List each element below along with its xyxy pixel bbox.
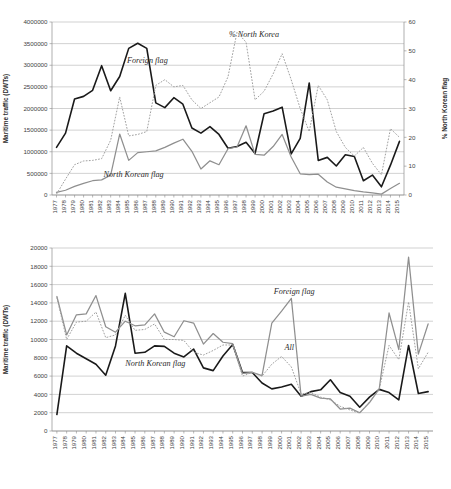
x-tick-label: 2008 xyxy=(354,435,361,449)
x-tick-label: 2003 xyxy=(285,199,292,213)
x-tick-label: 2003 xyxy=(305,435,312,449)
y2-tick-label: 30 xyxy=(409,105,416,112)
x-tick-label: 2006 xyxy=(312,199,319,213)
series-annotation: % North Korea xyxy=(229,30,279,39)
y2-tick-label: 10 xyxy=(409,162,416,169)
chart-top: 0500000100000015000002000000250000030000… xyxy=(0,0,451,245)
x-tick-label: 1996 xyxy=(222,199,229,213)
x-tick-label: 2000 xyxy=(276,435,283,449)
x-tick-label: 2012 xyxy=(366,199,373,213)
x-tick-label: 1999 xyxy=(266,435,273,449)
x-tick-label: 1994 xyxy=(204,199,211,213)
y-axis-title: Maritime traffic (DWTs) xyxy=(2,74,10,143)
x-tick-label: 2009 xyxy=(364,435,371,449)
x-tick-label: 1977 xyxy=(51,199,58,213)
y2-tick-label: 60 xyxy=(409,18,416,25)
x-tick-label: 1987 xyxy=(149,435,156,449)
x-tick-label: 1991 xyxy=(177,199,184,213)
figure-container: 0500000100000015000002000000250000030000… xyxy=(0,0,451,489)
y-tick-label: 12000 xyxy=(30,317,48,324)
x-tick-label: 1996 xyxy=(237,435,244,449)
x-tick-label: 1998 xyxy=(240,199,247,213)
y-tick-label: 2000000 xyxy=(23,105,48,112)
x-tick-label: 1997 xyxy=(246,435,253,449)
x-tick-label: 2001 xyxy=(267,199,274,213)
series-annotation: Foreign flag xyxy=(126,56,168,65)
x-tick-label: 2015 xyxy=(422,435,429,449)
y2-tick-label: 20 xyxy=(409,134,416,141)
x-tick-label: 1985 xyxy=(123,199,130,213)
x-tick-label: 1988 xyxy=(158,435,165,449)
y-tick-label: 1500000 xyxy=(23,126,48,133)
x-tick-label: 1980 xyxy=(80,435,87,449)
x-tick-label: 1982 xyxy=(96,199,103,213)
x-tick-label: 2014 xyxy=(384,199,391,213)
x-tick-label: 1978 xyxy=(60,199,67,213)
x-tick-label: 2014 xyxy=(412,435,419,449)
series-line-north-korean-flag xyxy=(57,126,400,194)
y-tick-label: 18000 xyxy=(30,263,48,270)
secondary-y-axis-title: % North Korean flag xyxy=(441,78,449,140)
y-tick-label: 16000 xyxy=(30,281,48,288)
y-tick-label: 6000 xyxy=(34,372,48,379)
y-tick-label: 0 xyxy=(44,427,48,434)
x-tick-label: 1990 xyxy=(178,435,185,449)
x-tick-label: 1997 xyxy=(231,199,238,213)
x-tick-label: 1983 xyxy=(110,435,117,449)
x-tick-label: 1984 xyxy=(119,435,126,449)
x-tick-label: 2009 xyxy=(339,199,346,213)
y-tick-label: 1000000 xyxy=(23,148,48,155)
y2-tick-label: 0 xyxy=(409,191,413,198)
x-tick-label: 2008 xyxy=(330,199,337,213)
x-tick-label: 1992 xyxy=(186,199,193,213)
chart-bottom: 0200040006000800010000120001400016000180… xyxy=(0,232,451,489)
y2-tick-label: 50 xyxy=(409,47,416,54)
x-tick-label: 1992 xyxy=(197,435,204,449)
x-tick-label: 1986 xyxy=(132,199,139,213)
x-tick-label: 2011 xyxy=(383,435,390,449)
y-tick-label: 500000 xyxy=(27,170,48,177)
x-tick-label: 1980 xyxy=(78,199,85,213)
x-tick-label: 2011 xyxy=(357,199,364,213)
x-tick-label: 1990 xyxy=(168,199,175,213)
x-tick-label: 1985 xyxy=(129,435,136,449)
x-tick-label: 1994 xyxy=(217,435,224,449)
series-line-foreign-flag xyxy=(57,43,400,187)
y-axis-title: Maritime traffic (DWTs) xyxy=(2,305,10,374)
series-annotation: North Korean flag xyxy=(124,359,185,368)
series-line-north-korean-flag xyxy=(57,293,428,414)
x-tick-label: 1993 xyxy=(207,435,214,449)
series-annotation: All xyxy=(284,343,295,352)
x-tick-label: 2010 xyxy=(348,199,355,213)
x-tick-label: 2005 xyxy=(303,199,310,213)
y-tick-label: 14000 xyxy=(30,299,48,306)
x-tick-label: 2007 xyxy=(344,435,351,449)
x-tick-label: 1989 xyxy=(168,435,175,449)
x-tick-label: 1988 xyxy=(150,199,157,213)
x-tick-label: 1999 xyxy=(249,199,256,213)
x-tick-label: 2006 xyxy=(334,435,341,449)
y2-tick-label: 40 xyxy=(409,76,416,83)
series-annotation: North Korean flag xyxy=(102,170,163,179)
x-tick-label: 1979 xyxy=(69,199,76,213)
series-annotation: Foreign flag xyxy=(273,287,315,296)
x-tick-label: 2000 xyxy=(258,199,265,213)
x-tick-label: 2004 xyxy=(294,199,301,213)
y-tick-label: 0 xyxy=(44,191,48,198)
y-tick-label: 2500000 xyxy=(23,83,48,90)
x-tick-label: 1983 xyxy=(105,199,112,213)
x-tick-label: 2004 xyxy=(315,435,322,449)
x-tick-label: 2002 xyxy=(295,435,302,449)
x-tick-label: 1981 xyxy=(87,199,94,213)
x-tick-label: 1987 xyxy=(141,199,148,213)
chart-bottom-svg: 0200040006000800010000120001400016000180… xyxy=(0,232,451,489)
x-tick-label: 1979 xyxy=(70,435,77,449)
x-tick-label: 2013 xyxy=(375,199,382,213)
series-line-foreign-flag xyxy=(57,257,428,413)
chart-top-svg: 0500000100000015000002000000250000030000… xyxy=(0,0,451,245)
x-tick-label: 1977 xyxy=(51,435,58,449)
x-tick-label: 2013 xyxy=(403,435,410,449)
y-tick-label: 2000 xyxy=(34,409,48,416)
y-tick-label: 20000 xyxy=(30,244,48,251)
x-tick-label: 2002 xyxy=(276,199,283,213)
